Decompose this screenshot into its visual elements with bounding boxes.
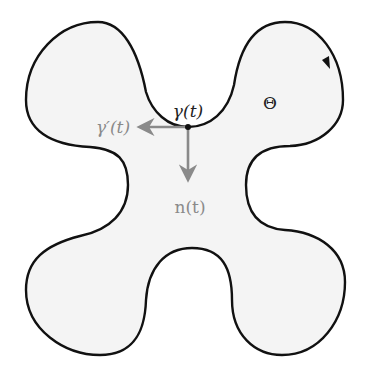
diagram-canvas: γ(t) γ′(t) n(t) Θ bbox=[0, 0, 367, 376]
region-label: Θ bbox=[263, 93, 277, 113]
curve-point-label: γ(t) bbox=[173, 101, 203, 121]
curve-point bbox=[185, 124, 191, 130]
tangent-vector-label: γ′(t) bbox=[96, 117, 130, 137]
closed-curve-boundary bbox=[26, 22, 345, 355]
normal-vector-label: n(t) bbox=[174, 197, 205, 217]
